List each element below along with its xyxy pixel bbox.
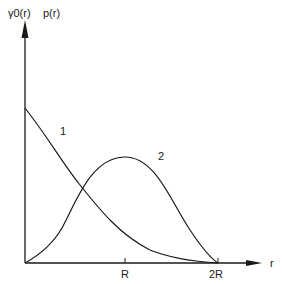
y-axis-label-p: p(r) bbox=[43, 7, 60, 19]
tick-label-R: R bbox=[121, 268, 129, 280]
x-axis-arrow-icon bbox=[246, 260, 262, 266]
curve-2 bbox=[25, 157, 218, 263]
x-axis-label: r bbox=[270, 257, 274, 269]
y-axis-arrow-icon bbox=[22, 20, 29, 38]
tick-label-2R: 2R bbox=[209, 268, 223, 280]
y-axis-label-gamma: γ0(r) bbox=[8, 7, 31, 19]
chart: γ0(r) p(r) r R 2R 1 2 bbox=[0, 0, 282, 284]
curve-2-label: 2 bbox=[158, 150, 164, 162]
curve-1-label: 1 bbox=[60, 125, 66, 137]
